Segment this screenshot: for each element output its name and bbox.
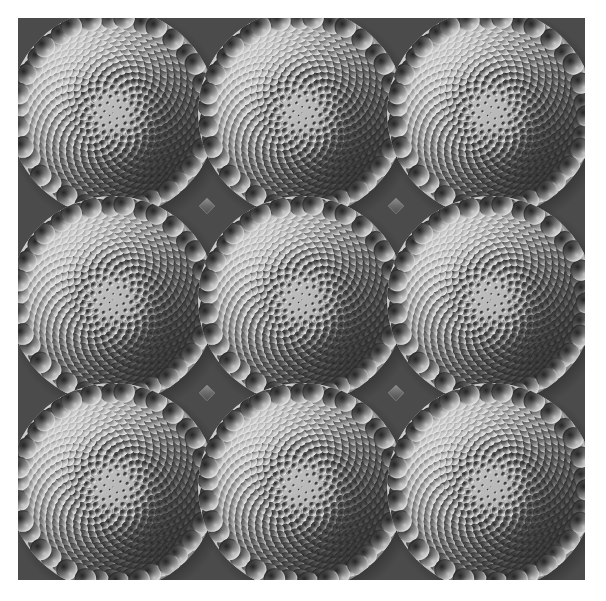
phyllotaxis-tiling-canvas [18,18,585,580]
page-top-margin [0,0,606,16]
artwork-stage [0,0,606,601]
artwork-canvas-frame [18,18,585,580]
